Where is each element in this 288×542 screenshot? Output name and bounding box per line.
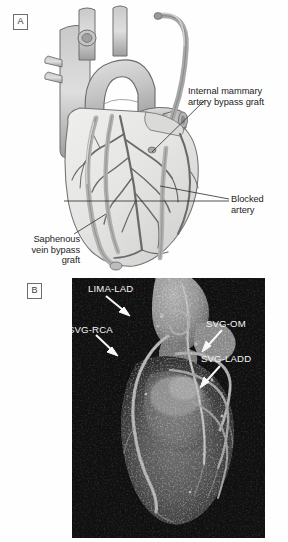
label-saphenous-vein-bypass-graft: Saphenous vein bypass graft [8, 234, 80, 266]
ct-label-svg-om: SVG-OM [206, 319, 246, 329]
label-blocked-artery: Blocked artery [231, 194, 287, 215]
illustration-vessels [45, 6, 198, 270]
figure-root: Internal mammary artery bypass graft Blo… [0, 0, 288, 542]
panel-letter-b: B [27, 283, 42, 299]
ct-label-svg-ladd: SVG-LADD [201, 354, 251, 364]
panel-b-ct-volume-rendering: LIMA-LAD SVG-RCA SVG-OM SVG-LADD [72, 278, 265, 538]
ct-label-lima-lad: LIMA-LAD [88, 284, 133, 294]
panel-letter-a: A [13, 14, 28, 30]
ct-label-svg-rca: SVG-RCA [72, 325, 113, 335]
panel-a-illustration: Internal mammary artery bypass graft Blo… [0, 0, 288, 276]
cardiac-ct-volume-image [72, 278, 265, 538]
label-internal-mammary-artery-bypass-graft: Internal mammary artery bypass graft [188, 86, 286, 107]
